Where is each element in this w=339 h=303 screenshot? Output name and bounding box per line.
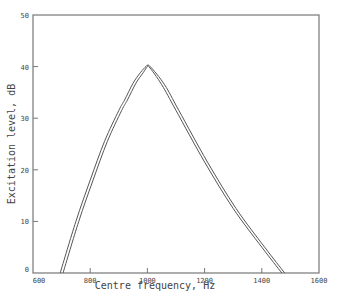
y-tick-label: 40 — [21, 64, 29, 72]
x-tick-label: 1400 — [253, 277, 270, 285]
y-axis-label: Excitation level, dB — [6, 84, 17, 204]
x-tick-label: 1600 — [311, 277, 328, 285]
x-tick-label: 600 — [33, 277, 46, 285]
axis-ticks: 600800100012001400160001020304050 — [21, 12, 328, 285]
y-tick-label: 20 — [21, 167, 29, 175]
plot-border — [33, 15, 319, 273]
y-tick-label: 30 — [21, 115, 29, 123]
excitation-curve — [63, 65, 285, 273]
chart: 600800100012001400160001020304050 Centre… — [0, 0, 339, 303]
x-axis-label: Centre frequency, Hz — [95, 280, 215, 291]
y-tick-label: 50 — [21, 12, 29, 20]
y-tick-label: 0 — [25, 266, 29, 274]
data-lines — [60, 65, 285, 273]
y-tick-label: 10 — [21, 218, 29, 226]
plot-frame — [33, 15, 319, 273]
